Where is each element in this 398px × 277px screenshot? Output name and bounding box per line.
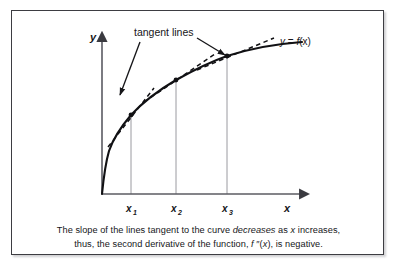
tick-label-x1: x 1 — [125, 203, 137, 216]
tangent-line-x3 — [197, 38, 274, 70]
tick-label-x2: x 2 — [170, 203, 182, 216]
x-axis-label: x — [283, 202, 291, 214]
gridline-group — [131, 56, 227, 194]
tangent-label-arrow-left — [120, 42, 140, 95]
tangent-point-x3 — [225, 54, 230, 59]
function-label-arg: (x) — [299, 36, 311, 47]
tangent-label-arrow-right — [197, 38, 225, 55]
function-label: y = f(x) — [279, 36, 311, 47]
tick-label-x3-base: x — [221, 203, 228, 214]
tick-label-x1-base: x — [125, 203, 132, 214]
figure-root: y x x 1 x 2 x 3 tangent lines y = f(x) — [0, 0, 398, 277]
figure-frame: y x x 1 x 2 x 3 tangent lines y = f(x) — [11, 10, 384, 255]
y-axis-label: y — [89, 31, 97, 43]
tangent-lines-plot: y x x 1 x 2 x 3 tangent lines y = f(x) — [12, 11, 385, 256]
tick-label-x1-sub: 1 — [133, 209, 137, 216]
tick-label-x3: x 3 — [221, 203, 233, 216]
tick-label-x3-sub: 3 — [229, 209, 233, 216]
caption-line1-emphasis: decreases — [233, 225, 276, 235]
tangent-line-x2 — [144, 54, 215, 102]
caption-line-1: The slope of the lines tangent to the cu… — [12, 225, 385, 235]
caption-line2-fn-symbol: ″( — [254, 239, 263, 249]
caption-line2-post: is negative. — [273, 239, 323, 249]
function-label-eq: = — [285, 36, 296, 47]
tangent-point-x2 — [174, 78, 179, 83]
tick-label-x2-base: x — [170, 203, 177, 214]
tangent-point-x1 — [129, 113, 134, 118]
caption-line-2: thus, the second derivative of the funct… — [12, 239, 385, 249]
tangent-lines-label: tangent lines — [134, 26, 194, 38]
caption-line2-pre: thus, the second derivative of the funct… — [74, 239, 251, 249]
caption-line1-pre: The slope of the lines tangent to the cu… — [57, 225, 233, 235]
tick-label-x2-sub: 2 — [177, 209, 182, 216]
caption-line1-mid: as — [276, 225, 291, 235]
caption-line1-post: increases, — [295, 225, 340, 235]
